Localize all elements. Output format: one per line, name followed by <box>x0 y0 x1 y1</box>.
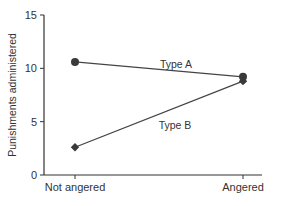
series-label-type-a: Type A <box>160 58 192 70</box>
series-group <box>71 58 247 152</box>
y-tick-label: 5 <box>31 116 37 128</box>
labels-group: Type AType B <box>159 58 192 131</box>
axes: 051015Not angeredAngeredPunishments admi… <box>6 9 264 193</box>
series-line-type-b <box>75 81 243 147</box>
diamond-marker-icon <box>71 143 79 151</box>
y-tick-label: 15 <box>25 9 37 21</box>
circle-marker-icon <box>71 58 79 66</box>
x-tick-label: Not angered <box>45 181 106 193</box>
chart-canvas: 051015Not angeredAngeredPunishments admi… <box>0 0 284 206</box>
x-tick-label: Angered <box>222 181 264 193</box>
y-tick-label: 10 <box>25 62 37 74</box>
series-label-type-b: Type B <box>159 119 192 131</box>
y-tick-label: 0 <box>31 169 37 181</box>
y-axis-title: Punishments administered <box>6 33 18 157</box>
line-chart: 051015Not angeredAngeredPunishments admi… <box>0 0 284 206</box>
